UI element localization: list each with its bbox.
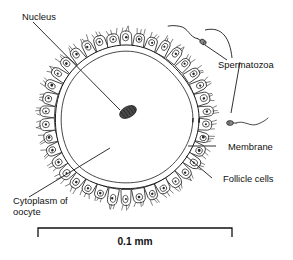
label-nucleus: Nucleus (22, 11, 56, 22)
label-cytoplasm-line2: oocyte (13, 206, 41, 217)
oocyte-diagram: Nucleus Spermatozoa Membrane Follicle ce… (0, 0, 293, 260)
label-cytoplasm-line1: Cytoplasm of (13, 195, 68, 206)
spermatozoon-head (227, 121, 234, 126)
follicle-cell-nucleolus (125, 198, 127, 200)
scale-bar-label: 0.1 mm (117, 236, 152, 247)
label-follicle-cells: Follicle cells (223, 173, 274, 184)
diagram-canvas: Nucleus Spermatozoa Membrane Follicle ce… (0, 0, 293, 260)
label-membrane: Membrane (228, 141, 273, 152)
label-spermatozoa: Spermatozoa (218, 59, 275, 70)
follicle-cell-nucleolus (125, 36, 128, 39)
